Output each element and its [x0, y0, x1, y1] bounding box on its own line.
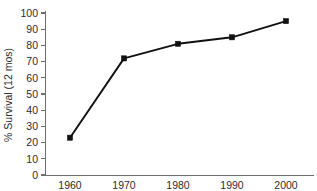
- x-tick-label-1960: 1960: [58, 179, 82, 191]
- y-tick-label-90: 90: [26, 23, 38, 35]
- x-tick-label-1990: 1990: [220, 179, 244, 191]
- y-tick-label-60: 60: [26, 72, 38, 84]
- data-point-1970: [121, 56, 126, 61]
- x-tick-label-1980: 1980: [166, 179, 190, 191]
- y-tick-label-20: 20: [26, 136, 38, 148]
- y-tick-label-80: 80: [26, 39, 38, 51]
- y-tick-label-40: 40: [26, 104, 38, 116]
- y-tick-label-0: 0: [32, 169, 38, 181]
- y-tick-label-70: 70: [26, 55, 38, 67]
- y-axis-title: % Survival (12 mos): [2, 48, 14, 142]
- chart-background: [0, 0, 317, 191]
- data-point-1990: [229, 35, 234, 40]
- y-tick-label-10: 10: [26, 153, 38, 165]
- y-tick-label-30: 30: [26, 120, 38, 132]
- y-tick-label-100: 100: [20, 7, 38, 19]
- x-tick-label-2000: 2000: [274, 179, 298, 191]
- x-tick-label-1970: 1970: [112, 179, 136, 191]
- y-tick-label-50: 50: [26, 88, 38, 100]
- data-point-1980: [175, 41, 180, 46]
- data-point-1960: [67, 135, 72, 140]
- chart-canvas: 100 90 80 70 60 50 40 30 20 10 0 1960 19…: [0, 0, 317, 191]
- data-point-2000: [283, 19, 288, 24]
- survival-line-chart: 100 90 80 70 60 50 40 30 20 10 0 1960 19…: [0, 0, 317, 191]
